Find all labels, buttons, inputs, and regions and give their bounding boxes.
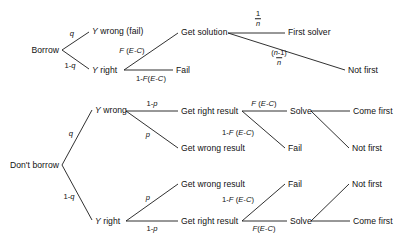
node-get-wrong-result-bot: Get wrong result [181, 180, 245, 189]
node-dont-borrow: Don't borrow [10, 161, 59, 170]
node-fail-top: Fail [176, 66, 190, 75]
node-solve-mid: Solve [290, 107, 312, 116]
node-y-right-top: Y right [92, 66, 117, 75]
node-y-right-bot: Y right [95, 217, 120, 226]
edge-label-p-bot: p [146, 194, 150, 202]
node-not-first-top: Not first [348, 66, 378, 75]
edge-label-one-over-n: 1 n [255, 10, 261, 28]
node-get-solution: Get solution [181, 28, 227, 37]
tree-edges [0, 0, 410, 248]
node-get-right-result-bot: Get right result [181, 217, 238, 226]
edge-label-q-top: q [70, 30, 74, 38]
edge-borrow-to-y-wrong [62, 32, 89, 50]
edge-y-right-to-get-wrong-result-bot [126, 184, 178, 221]
node-get-right-result-mid: Get right result [181, 107, 238, 116]
node-get-wrong-result-mid: Get wrong result [181, 144, 245, 153]
node-y-wrong-mid: Y wrong [95, 106, 127, 115]
edge-label-one-minus-f-ec-mid: 1-F (E-C) [222, 129, 254, 137]
edge-label-one-minus-p-bot: 1-p [146, 225, 157, 233]
edge-label-n-minus-one-over-n: (n-1) n [270, 49, 288, 67]
node-not-first-mid: Not first [352, 144, 382, 153]
edge-y-wrong-to-get-wrong-result [126, 111, 178, 148]
node-fail-mid: Fail [288, 144, 302, 153]
node-first-solver: First solver [288, 28, 331, 37]
node-y-wrong-fail: Y wrong (fail) [92, 27, 143, 36]
edge-label-one-minus-p-mid: 1-p [146, 100, 157, 108]
node-borrow: Borrow [31, 46, 59, 55]
node-not-first-bot: Not first [352, 180, 382, 189]
edge-label-p-mid: p [146, 131, 150, 139]
edge-label-one-minus-f-ec-top: 1-F(E-C) [136, 75, 166, 83]
node-solve-bot: Solve [290, 217, 312, 226]
edge-label-f-ec-mid: F (E-C) [251, 100, 276, 108]
node-come-first-mid: Come first [353, 107, 393, 116]
node-fail-bot: Fail [288, 180, 302, 189]
edge-label-f-ec-top: F (E-C) [119, 47, 144, 55]
edge-label-one-minus-q-bot: 1-q [63, 193, 74, 201]
edge-label-q-mid: q [69, 130, 73, 138]
edge-label-f-ec-bot: F(E-C) [252, 225, 275, 233]
edge-solve-to-not-first-bot [311, 184, 349, 221]
node-come-first-bot: Come first [353, 217, 393, 226]
edge-label-one-minus-q-top: 1-q [64, 62, 75, 70]
edge-dont-borrow-to-y-wrong [62, 110, 92, 165]
edge-solve-to-not-first-mid [311, 111, 349, 148]
decision-tree-diagram: Borrow Y wrong (fail) Y right Get soluti… [0, 0, 410, 248]
edge-label-one-minus-f-ec-bot: 1-F (E-C) [222, 196, 254, 204]
